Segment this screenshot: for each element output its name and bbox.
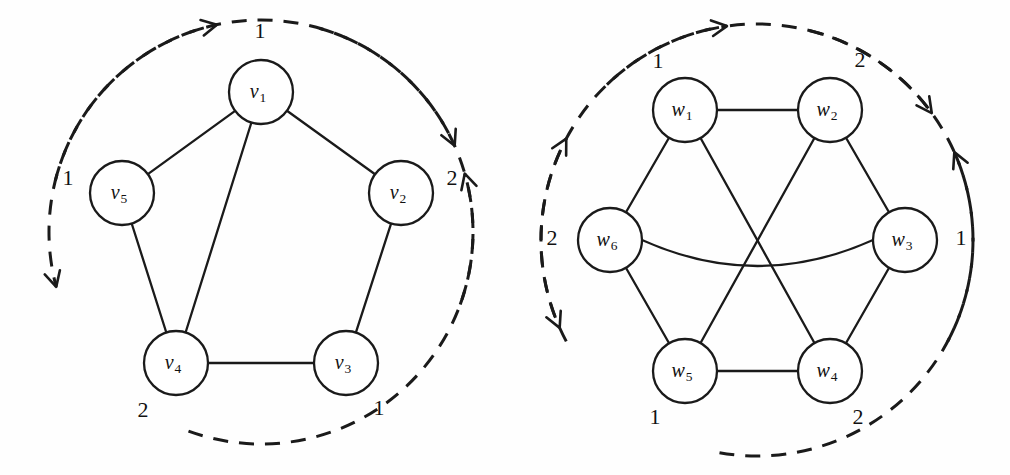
graph-edge bbox=[132, 224, 167, 333]
figure-canvas: v1v2v3v4v5w1w2w3w4w5w6 12121121212 bbox=[0, 0, 1010, 475]
graph-edge bbox=[186, 123, 252, 333]
graph-vertex-w3[interactable]: w3 bbox=[873, 208, 937, 272]
position-number-label: 2 bbox=[447, 165, 458, 190]
position-number-label: 1 bbox=[374, 395, 385, 420]
position-number-label: 1 bbox=[956, 225, 967, 250]
graph-vertex-v3[interactable]: v3 bbox=[314, 331, 378, 395]
graph-vertex-w2[interactable]: w2 bbox=[798, 78, 862, 142]
position-number-label: 2 bbox=[853, 404, 864, 429]
graph-vertex-v1[interactable]: v1 bbox=[229, 60, 293, 124]
graph-edge bbox=[356, 223, 391, 332]
dashed-arc bbox=[319, 28, 454, 146]
graph-vertex-w1[interactable]: w1 bbox=[653, 78, 717, 142]
graph-vertex-w6[interactable]: w6 bbox=[578, 208, 642, 272]
graph-figure: v1v2v3v4v5w1w2w3w4w5w6 12121121212 bbox=[0, 0, 1010, 475]
graph-edge bbox=[846, 138, 889, 213]
position-number-label: 1 bbox=[255, 18, 266, 43]
position-number-label: 1 bbox=[653, 48, 664, 73]
graph-vertex-w4[interactable]: w4 bbox=[798, 339, 862, 403]
graph-vertex-v5[interactable]: v5 bbox=[90, 161, 154, 225]
graph-edge bbox=[626, 268, 669, 343]
graph-edge bbox=[642, 240, 873, 266]
graph-vertex-v4[interactable]: v4 bbox=[144, 331, 208, 395]
graph-edge bbox=[148, 111, 235, 174]
graph-edge bbox=[287, 111, 375, 175]
dashed-arc bbox=[460, 174, 473, 305]
position-number-label: 2 bbox=[138, 397, 149, 422]
dashed-arc bbox=[607, 26, 727, 85]
arrow-head-icon bbox=[45, 270, 60, 287]
position-number-label: 1 bbox=[650, 404, 661, 429]
graph-edge bbox=[846, 268, 889, 343]
dashed-arc bbox=[55, 25, 217, 181]
graph-edge-layer bbox=[132, 110, 889, 371]
position-number-label: 1 bbox=[63, 165, 74, 190]
graph-vertex-v2[interactable]: v2 bbox=[369, 161, 433, 225]
position-number-label: 2 bbox=[855, 47, 866, 72]
graph-vertex-w5[interactable]: w5 bbox=[653, 339, 717, 403]
position-number-label: 2 bbox=[547, 225, 558, 250]
graph-edge bbox=[626, 138, 669, 213]
